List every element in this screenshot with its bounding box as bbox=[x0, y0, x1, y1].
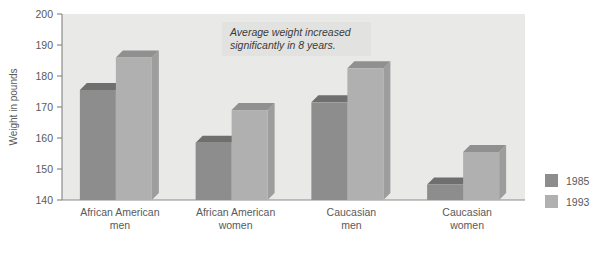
legend: 19851993 bbox=[545, 174, 590, 208]
bar-front-face bbox=[427, 185, 463, 201]
annotation-line-1: Average weight increased bbox=[229, 26, 352, 38]
category-label-line: African American bbox=[80, 206, 160, 218]
bar-1993-african-american-women bbox=[232, 103, 275, 200]
bar-front-face bbox=[116, 57, 152, 200]
bar-front-face bbox=[311, 102, 347, 200]
bar-chart-figure: 140150160170180190200 African Americanme… bbox=[0, 0, 613, 256]
annotation-callout: Average weight increased significantly i… bbox=[222, 22, 371, 56]
legend-label-1985: 1985 bbox=[566, 175, 590, 187]
y-tick-label: 140 bbox=[35, 194, 53, 206]
y-tick-label: 200 bbox=[35, 8, 53, 20]
annotation-line-2: significantly in 8 years. bbox=[230, 39, 336, 51]
bar-side-face bbox=[499, 145, 506, 200]
bar-top-face bbox=[347, 61, 390, 68]
category-label-line: African American bbox=[196, 206, 276, 218]
category-label-line: men bbox=[341, 219, 362, 231]
legend-swatch-1985 bbox=[545, 174, 558, 187]
y-tick-label: 180 bbox=[35, 70, 53, 82]
category-label-line: women bbox=[449, 219, 484, 231]
legend-label-1993: 1993 bbox=[566, 196, 590, 208]
bar-top-face bbox=[232, 103, 275, 110]
bar-front-face bbox=[196, 143, 232, 200]
bar-front-face bbox=[232, 110, 268, 200]
y-tick-label: 160 bbox=[35, 132, 53, 144]
bar-front-face bbox=[463, 152, 499, 200]
y-tick-label: 190 bbox=[35, 39, 53, 51]
y-axis-title: Weight in pounds bbox=[8, 68, 19, 145]
bar-front-face bbox=[80, 90, 116, 200]
bar-1993-caucasian-women bbox=[463, 145, 506, 200]
legend-swatch-1993 bbox=[545, 195, 558, 208]
x-axis-category-labels: African AmericanmenAfrican Americanwomen… bbox=[80, 206, 492, 231]
bar-1993-african-american-men bbox=[116, 50, 159, 200]
category-label-line: Caucasian bbox=[327, 206, 377, 218]
bar-front-face bbox=[347, 68, 383, 200]
chart-svg: 140150160170180190200 African Americanme… bbox=[0, 0, 613, 256]
bar-side-face bbox=[268, 103, 275, 200]
category-label-line: women bbox=[218, 219, 253, 231]
y-axis-ticks: 140150160170180190200 bbox=[35, 8, 62, 206]
category-label-line: Caucasian bbox=[442, 206, 492, 218]
y-tick-label: 150 bbox=[35, 163, 53, 175]
bar-1993-caucasian-men bbox=[347, 61, 390, 200]
y-tick-label: 170 bbox=[35, 101, 53, 113]
category-label-line: men bbox=[110, 219, 131, 231]
bar-top-face bbox=[116, 50, 159, 57]
bar-side-face bbox=[383, 61, 390, 200]
bar-side-face bbox=[152, 50, 159, 200]
bar-top-face bbox=[463, 145, 506, 152]
